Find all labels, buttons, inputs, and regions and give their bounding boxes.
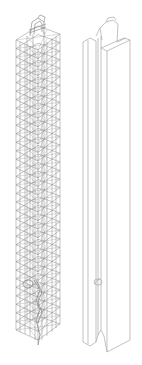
- column-solid: [83, 17, 130, 352]
- figure-canvas: [0, 0, 142, 365]
- rebar-top-anchor: [29, 15, 46, 36]
